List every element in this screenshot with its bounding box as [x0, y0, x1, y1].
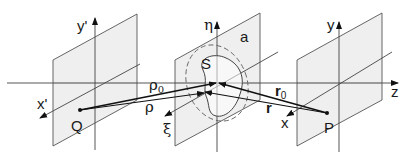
label-x: x — [281, 114, 289, 131]
label-y: y — [327, 16, 335, 33]
observation-plane — [287, 13, 392, 152]
aperture-plane — [165, 13, 278, 152]
label-eta: η — [204, 16, 213, 34]
label-rho0: ρ0 — [149, 76, 164, 95]
label-z: z — [391, 83, 399, 100]
label-x-prime: x' — [37, 95, 48, 112]
label-a: a — [240, 28, 249, 45]
label-y-prime: y' — [77, 17, 88, 34]
diffraction-geometry-diagram: y' x' Q η ξ a S ρ0 ρ y x P z r0 r — [0, 0, 409, 158]
label-xi: ξ — [163, 120, 171, 138]
label-r0: r0 — [275, 82, 287, 101]
label-S: S — [201, 55, 211, 72]
label-P: P — [324, 119, 334, 136]
label-Q: Q — [71, 117, 83, 134]
source-plane — [40, 14, 140, 150]
label-r: r — [266, 99, 272, 116]
